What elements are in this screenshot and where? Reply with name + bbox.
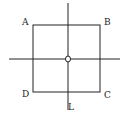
label-d: D (22, 89, 29, 99)
label-a: A (21, 17, 29, 27)
label-c: C (104, 90, 111, 100)
diagram-canvas: A B C D L (0, 0, 127, 117)
label-b: B (104, 17, 111, 27)
center-point-o (66, 56, 71, 62)
label-l: L (68, 102, 74, 112)
